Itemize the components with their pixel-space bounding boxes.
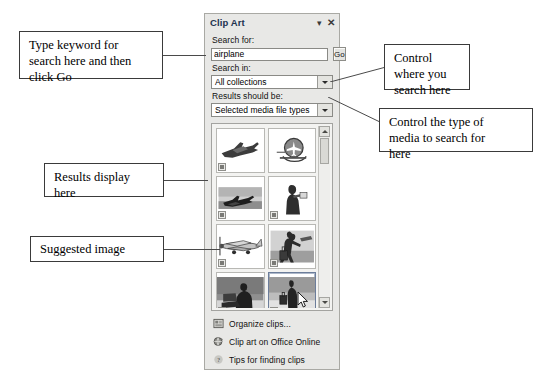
link-organize-clips[interactable]: Organize clips... — [213, 318, 333, 329]
media-type-badge — [218, 307, 226, 308]
media-type-badge — [218, 163, 226, 171]
leader-line-where — [330, 66, 386, 82]
media-type-badge — [270, 259, 278, 267]
callout-where-line-3: search here — [394, 82, 461, 98]
thumbnail-propeller-plane[interactable] — [216, 224, 265, 269]
pane-body: Search for: Go Search in: All collection… — [205, 30, 339, 365]
link-tips-for-finding-clips-label: Tips for finding clips — [229, 355, 305, 365]
scroll-up-arrow-icon[interactable] — [319, 126, 330, 137]
pane-header: Clip Art ▾ ✕ — [205, 14, 339, 30]
leader-line-search — [163, 55, 206, 56]
callout-type-line-1: Control the type of — [389, 114, 524, 130]
thumbnail-man-at-laptop-photo[interactable] — [216, 272, 265, 308]
callout-search-line-3: click Go — [29, 69, 154, 85]
mouse-cursor-icon — [297, 291, 309, 309]
callout-type-line-3: here — [389, 146, 524, 162]
thumbnail-airplane-globe-logo[interactable] — [268, 128, 317, 173]
leader-line-suggested — [164, 249, 220, 250]
callout-where-line-2: where you — [394, 66, 461, 82]
callout-search-line-1: Type keyword for — [29, 37, 154, 53]
svg-text:?: ? — [217, 357, 220, 363]
callout-suggested-line-1: Suggested image — [40, 241, 155, 257]
search-for-label: Search for: — [212, 35, 333, 45]
results-scrollbar[interactable] — [318, 126, 330, 308]
callout-suggested-image: Suggested image — [30, 236, 164, 262]
media-type-badge — [270, 307, 278, 308]
results-type-value: Selected media file types — [212, 105, 317, 115]
media-type-badge — [218, 211, 226, 219]
search-in-label: Search in: — [212, 63, 333, 73]
pane-footer: Organize clips... Clip art on Office Onl… — [211, 318, 333, 365]
man-at-laptop-photo-icon — [217, 273, 264, 308]
search-in-dropdown[interactable]: All collections — [211, 75, 333, 89]
callout-results-line-2: here — [54, 185, 155, 201]
airplane-globe-logo-icon — [269, 129, 316, 172]
tips-help-icon: ? — [213, 354, 224, 365]
media-type-badge — [270, 211, 278, 219]
callout-search-instruction: Type keyword for search here and then cl… — [19, 31, 163, 79]
link-organize-clips-label: Organize clips... — [229, 319, 291, 329]
scrollbar-thumb[interactable] — [320, 138, 329, 164]
pane-title: Clip Art — [210, 17, 314, 28]
callout-where-line-1: Control — [394, 50, 461, 66]
office-online-icon — [213, 336, 224, 347]
close-icon[interactable]: ✕ — [325, 18, 336, 28]
scroll-down-arrow-icon[interactable] — [319, 297, 330, 308]
link-clip-art-office-online-label: Clip art on Office Online — [229, 337, 320, 347]
clip-art-task-pane: Clip Art ▾ ✕ Search for: Go Search in: A… — [204, 13, 340, 370]
callout-search-scope: Control where you search here — [384, 44, 470, 90]
screenshot-root: Type keyword for search here and then cl… — [0, 0, 547, 387]
go-button[interactable]: Go — [333, 47, 346, 61]
leader-line-type — [328, 97, 380, 123]
results-grid — [214, 126, 318, 308]
thumbnail-woman-reading-figure[interactable] — [268, 176, 317, 221]
callout-search-line-2: search here and then — [29, 53, 154, 69]
callout-media-type: Control the type of media to search for … — [379, 108, 533, 152]
thumbnail-traveler-with-luggage[interactable] — [268, 224, 317, 269]
leader-line-results — [164, 180, 208, 181]
thumbnail-airplane-landscape-photo[interactable] — [216, 176, 265, 221]
chevron-down-icon[interactable]: ▾ — [314, 18, 325, 28]
link-clip-art-office-online[interactable]: Clip art on Office Online — [213, 336, 333, 347]
search-row: Go — [211, 47, 333, 61]
results-area — [211, 123, 333, 311]
search-in-value: All collections — [212, 77, 317, 87]
link-tips-for-finding-clips[interactable]: ? Tips for finding clips — [213, 354, 333, 365]
results-type-dropdown[interactable]: Selected media file types — [211, 103, 333, 117]
callout-type-line-2: media to search for — [389, 130, 524, 146]
results-should-be-label: Results should be: — [212, 91, 333, 101]
callout-results-instruction: Results display here — [44, 163, 164, 197]
media-type-badge — [218, 259, 226, 267]
thumbnail-jet-fighter-silhouette[interactable] — [216, 128, 265, 173]
callout-results-line-1: Results display — [54, 169, 155, 185]
search-input[interactable] — [211, 48, 328, 61]
organize-clips-icon — [213, 318, 224, 329]
